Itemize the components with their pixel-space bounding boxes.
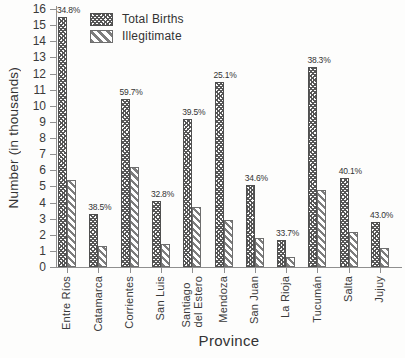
y-tick-label-12: 12 (18, 68, 46, 80)
crosshatch-swatch-icon (90, 13, 113, 26)
bar-total-san-juan (246, 185, 255, 267)
y-tick-label-11: 11 (18, 84, 46, 96)
y-tick-8 (50, 138, 56, 139)
legend: Total Births Illegitimate (90, 12, 184, 43)
percent-label-corrientes: 59.7% (120, 87, 143, 97)
bar-total-catamarca (89, 214, 98, 267)
x-tick-santiago-del-estero (192, 268, 193, 273)
x-tick-san-luis (161, 268, 162, 273)
y-tick-1 (50, 251, 56, 252)
x-tick-corrientes (130, 268, 131, 273)
y-tick-11 (50, 90, 56, 91)
x-axis-title: Province (56, 332, 402, 349)
bar-illegitimate-catamarca (98, 246, 107, 267)
bar-illegitimate-entre-ríos (67, 180, 76, 267)
x-label-tucumán: Tucumán (312, 276, 324, 323)
percent-label-salta: 40.1% (339, 166, 362, 176)
bar-illegitimate-san-luis (161, 244, 170, 267)
x-tick-mendoza (224, 268, 225, 273)
x-label-san-juan: San Juan (249, 276, 261, 324)
y-tick-label-9: 9 (18, 116, 46, 128)
percent-label-san-luis: 32.8% (151, 189, 174, 199)
bar-illegitimate-la-rioja (286, 257, 295, 267)
y-tick-12 (50, 74, 56, 75)
x-tick-salta (349, 268, 350, 273)
bar-total-tucumán (308, 67, 317, 267)
x-label-san-luis: San Luis (155, 276, 167, 320)
y-tick-label-10: 10 (18, 100, 46, 112)
y-tick-label-6: 6 (18, 164, 46, 176)
percent-label-mendoza: 25.1% (214, 70, 237, 80)
x-tick-catamarca (98, 268, 99, 273)
x-label-jujuy: Jujuy (374, 276, 386, 303)
y-tick-label-15: 15 (18, 19, 46, 31)
y-tick-7 (50, 154, 56, 155)
percent-label-catamarca: 38.5% (88, 202, 111, 212)
percent-label-la-rioja: 33.7% (276, 228, 299, 238)
bar-illegitimate-santiago-del-estero (192, 207, 201, 267)
bar-illegitimate-mendoza (224, 220, 233, 267)
y-tick-label-3: 3 (18, 213, 46, 225)
y-tick-label-1: 1 (18, 245, 46, 257)
y-tick-10 (50, 106, 56, 107)
y-tick-15 (50, 25, 56, 26)
y-tick-label-14: 14 (18, 35, 46, 47)
bar-illegitimate-salta (349, 232, 358, 267)
y-tick-label-4: 4 (18, 197, 46, 209)
x-tick-tucumán (317, 268, 318, 273)
y-tick-6 (50, 170, 56, 171)
bar-illegitimate-corrientes (130, 167, 139, 267)
percent-label-entre-ríos: 34.8% (57, 5, 80, 15)
y-tick-label-16: 16 (18, 3, 46, 15)
y-tick-label-0: 0 (18, 261, 46, 273)
x-tick-jujuy (380, 268, 381, 273)
legend-label-total-births: Total Births (122, 12, 184, 26)
y-axis-line (56, 6, 57, 268)
bar-total-salta (340, 178, 349, 267)
y-tick-label-8: 8 (18, 132, 46, 144)
percent-label-jujuy: 43.0% (370, 210, 393, 220)
legend-label-illegitimate: Illegitimate (122, 29, 182, 43)
x-label-wrap-jujuy: Jujuy (362, 276, 398, 303)
legend-item-total-births: Total Births (90, 12, 184, 26)
x-label-entre-ríos: Entre Ríos (61, 276, 73, 330)
x-axis-line (56, 267, 402, 268)
y-tick-9 (50, 122, 56, 123)
bar-chart-figure: Total Births Illegitimate Number (in tho… (0, 0, 405, 358)
bar-illegitimate-jujuy (380, 248, 389, 267)
bar-total-corrientes (121, 99, 130, 267)
y-tick-13 (50, 57, 56, 58)
x-label-catamarca: Catamarca (93, 276, 105, 332)
bar-total-san-luis (152, 201, 161, 267)
y-tick-label-13: 13 (18, 51, 46, 63)
y-tick-16 (50, 9, 56, 10)
y-tick-label-5: 5 (18, 180, 46, 192)
y-tick-3 (50, 219, 56, 220)
bar-total-mendoza (215, 82, 224, 267)
bar-illegitimate-san-juan (255, 238, 264, 267)
y-tick-2 (50, 235, 56, 236)
x-tick-san-juan (255, 268, 256, 273)
percent-label-tucumán: 38.3% (307, 55, 330, 65)
legend-item-illegitimate: Illegitimate (90, 29, 184, 43)
x-label-santiago-del-estero: Santiago del Estero (181, 276, 204, 328)
x-tick-entre-ríos (67, 268, 68, 273)
x-label-salta: Salta (343, 276, 355, 302)
y-tick-label-2: 2 (18, 229, 46, 241)
y-tick-0 (50, 267, 56, 268)
y-tick-4 (50, 203, 56, 204)
x-label-corrientes: Corrientes (124, 276, 136, 329)
percent-label-san-juan: 34.6% (245, 173, 268, 183)
bar-total-entre-ríos (58, 17, 67, 267)
percent-label-santiago-del-estero: 39.5% (182, 107, 205, 117)
y-tick-14 (50, 41, 56, 42)
bar-illegitimate-tucumán (317, 190, 326, 267)
x-tick-la-rioja (286, 268, 287, 273)
y-tick-label-7: 7 (18, 148, 46, 160)
x-label-la-rioja: La Rioja (280, 276, 292, 318)
bar-total-la-rioja (277, 240, 286, 267)
diagonal-hatch-swatch-icon (90, 30, 113, 43)
bar-total-jujuy (371, 222, 380, 267)
bar-total-santiago-del-estero (183, 119, 192, 267)
y-tick-5 (50, 186, 56, 187)
